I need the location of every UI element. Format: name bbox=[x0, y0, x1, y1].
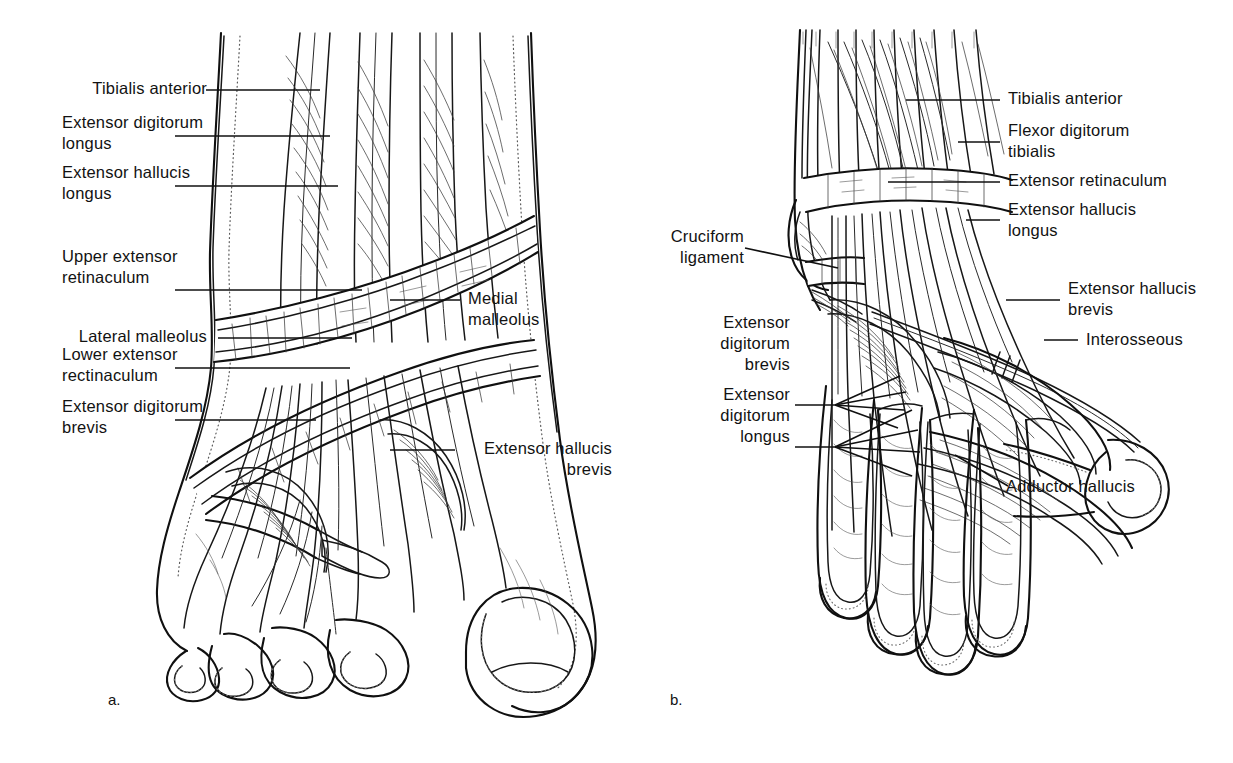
label-b-extensor-digitorum-longus: Extensor digitorum longus bbox=[604, 384, 790, 447]
figure-page: .o { fill:none; stroke:#101010; stroke-w… bbox=[0, 0, 1233, 763]
label-b-extensor-retinaculum: Extensor retinaculum bbox=[1008, 170, 1223, 191]
label-b-extensor-hallucis-brevis: Extensor hallucis brevis bbox=[1068, 278, 1228, 320]
label-b-flexor-digitorum-tibialis: Flexor digitorum tibialis bbox=[1008, 120, 1208, 162]
label-a-extensor-hallucis-longus: Extensor hallucis longus bbox=[62, 162, 252, 204]
panel-b-caption: b. bbox=[670, 691, 683, 708]
label-b-interosseous: Interosseous bbox=[1086, 329, 1226, 350]
label-a-upper-extensor-retinaculum: Upper extensor retinaculum bbox=[62, 246, 252, 288]
panel-a-caption: a. bbox=[108, 691, 121, 708]
label-a-lower-extensor-rectinaculum: Lower extensor rectinaculum bbox=[62, 344, 252, 386]
label-a-extensor-hallucis-brevis: Extensor hallucis brevis bbox=[440, 438, 612, 480]
label-b-extensor-digitorum-brevis: Extensor digitorum brevis bbox=[604, 312, 790, 375]
label-a-extensor-digitorum-longus: Extensor digitorum longus bbox=[62, 112, 252, 154]
label-a-extensor-digitorum-brevis: Extensor digitorum brevis bbox=[62, 396, 262, 438]
label-b-cruciform-ligament: Cruciform ligament bbox=[598, 226, 744, 268]
label-b-tibialis-anterior: Tibialis anterior bbox=[1008, 88, 1208, 109]
label-a-tibialis-anterior: Tibialis anterior bbox=[55, 78, 207, 99]
label-a-medial-malleolus: Medial malleolus bbox=[468, 288, 588, 330]
label-b-adductor-hallucis: Adductor hallucis bbox=[1006, 476, 1186, 497]
label-b-extensor-hallucis-longus: Extensor hallucis longus bbox=[1008, 199, 1208, 241]
